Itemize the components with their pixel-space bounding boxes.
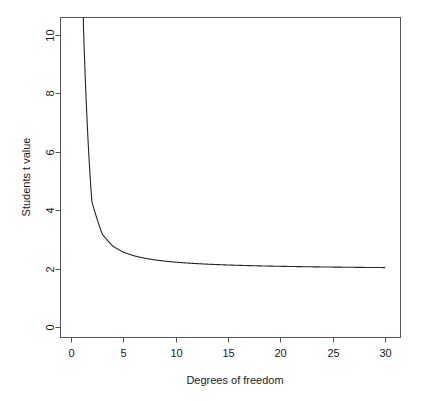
y-tick-label: 8 (44, 90, 56, 96)
y-axis-title: Students t value (20, 138, 32, 217)
y-tick-label: 4 (44, 207, 56, 213)
t-value-line-chart: 051015202530 0246810 Degrees of freedom … (0, 0, 424, 401)
x-axis-title: Degrees of freedom (186, 374, 283, 386)
x-tick-label: 10 (170, 347, 182, 359)
x-tick-label: 25 (327, 347, 339, 359)
y-tick-label: 2 (44, 266, 56, 272)
x-tick-label: 5 (120, 347, 126, 359)
y-tick-label: 0 (44, 324, 56, 330)
chart-container: 051015202530 0246810 Degrees of freedom … (0, 0, 424, 401)
x-tick-label: 15 (222, 347, 234, 359)
y-tick-label: 10 (44, 29, 56, 41)
x-tick-label: 30 (379, 347, 391, 359)
chart-background (0, 0, 424, 401)
y-tick-label: 6 (44, 149, 56, 155)
x-tick-label: 20 (274, 347, 286, 359)
x-tick-label: 0 (68, 347, 74, 359)
